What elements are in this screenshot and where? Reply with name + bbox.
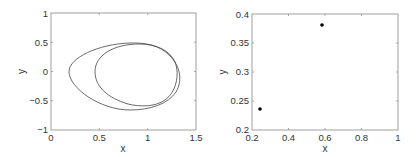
right-ytick-3: 0.35 [231,37,250,48]
right-ylabel: y [217,70,228,75]
data-point-2 [320,23,324,27]
right-ytick-0: 0.2 [236,124,249,135]
left-xtick-3: 1.5 [189,132,202,143]
right-xtick-2: 0.6 [318,132,331,143]
right-axes-box [252,14,398,130]
left-ytick-3: 0.5 [35,37,48,48]
figure: 0 0.5 1 1.5 −1 −0.5 0 0.5 1 x y 0.2 0.4 … [0,0,419,157]
right-ytick-4: 0.4 [236,9,249,20]
left-ytick-0: −1 [37,124,48,135]
right-xlabel: x [323,143,328,154]
right-xtick-4: 1 [395,132,400,143]
right-ytick-1: 0.25 [231,95,250,106]
left-ylabel: y [16,69,27,74]
left-ytick-1: −0.5 [29,95,48,106]
left-xtick-0: 0 [48,132,53,143]
left-ytick-4: 1 [43,8,48,19]
data-point-1 [258,107,262,111]
left-axes-box [51,13,196,130]
right-plot: 0.2 0.4 0.6 0.8 1 0.2 0.25 0.3 0.35 0.4 … [217,9,401,155]
left-ytick-2: 0 [43,66,48,77]
left-xlabel: x [121,143,126,154]
left-xtick-1: 0.5 [93,132,106,143]
left-xtick-2: 1 [145,132,150,143]
left-plot: 0 0.5 1 1.5 −1 −0.5 0 0.5 1 x y [16,8,203,155]
right-ytick-2: 0.3 [236,66,249,77]
right-xtick-1: 0.4 [282,132,295,143]
right-xtick-3: 0.8 [355,132,368,143]
